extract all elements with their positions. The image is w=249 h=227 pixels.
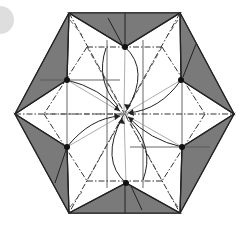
dot-lower-left <box>64 144 70 150</box>
dot-upper-right <box>178 77 184 83</box>
origami-diagram <box>0 0 249 227</box>
dot-lower-right <box>179 144 185 150</box>
dot-upper-left <box>64 77 70 83</box>
dot-bottom <box>123 180 129 186</box>
step-marker-circle <box>0 6 14 34</box>
dot-top <box>122 44 128 50</box>
